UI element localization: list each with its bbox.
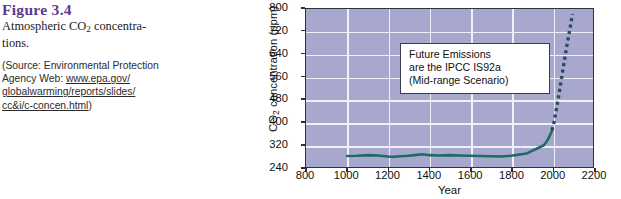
source-url-line1[interactable]: www.epa.gov/ <box>66 73 130 84</box>
y-tick-label: 480 <box>248 93 288 104</box>
figure-title-text-end: tions. <box>2 36 29 50</box>
annotation-line-1: Future Emissions <box>409 48 542 61</box>
source-url-line3[interactable]: cc&i/c-concen.html <box>2 100 88 111</box>
figure-source-note: (Source: Environmental Protection Agency… <box>2 59 164 112</box>
figure-caption-block: Figure 3.4 Atmospheric CO2 concentra-tio… <box>2 1 234 112</box>
y-tick-label: 720 <box>248 25 288 36</box>
y-tick-label: 560 <box>248 71 288 82</box>
x-tick-mark <box>470 168 472 172</box>
source-suffix-text: ) <box>88 100 91 111</box>
figure-title-text-cont: concentra- <box>91 19 146 33</box>
x-tick-mark <box>594 168 596 172</box>
x-tick-mark <box>429 168 431 172</box>
x-tick-mark <box>511 168 513 172</box>
x-tick-mark <box>388 168 390 172</box>
y-tick-label: 800 <box>248 2 288 13</box>
x-tick-mark <box>346 168 348 172</box>
x-tick-mark <box>553 168 555 172</box>
projection-line <box>552 14 573 130</box>
y-tick-mark <box>301 121 305 123</box>
observed-line <box>347 130 552 157</box>
y-axis-title-subscript: 2 <box>271 110 281 115</box>
y-tick-mark <box>301 144 305 146</box>
source-url-line2[interactable]: globalwarming/reports/slides/ <box>2 86 135 97</box>
y-tick-label: 320 <box>248 139 288 150</box>
annotation-line-3: (Mid-range Scenario) <box>409 74 542 87</box>
x-axis-title: Year <box>305 184 594 196</box>
co2-concentration-chart: CO2 concentration (ppm) Future Emissions… <box>243 0 621 199</box>
y-tick-label: 400 <box>248 116 288 127</box>
annotation-callout: Future Emissions are the IPCC IS92a (Mid… <box>400 43 550 94</box>
y-tick-mark <box>301 76 305 78</box>
figure-title-text: Atmospheric CO <box>2 19 86 33</box>
y-tick-mark <box>301 53 305 55</box>
figure-number: Figure 3.4 <box>2 1 234 18</box>
figure-title: Atmospheric CO2 concentra-tions. <box>2 19 152 51</box>
x-tick-mark <box>305 168 307 172</box>
y-tick-mark <box>301 30 305 32</box>
annotation-line-2: are the IPCC IS92a <box>409 61 542 74</box>
plot-area: Future Emissions are the IPCC IS92a (Mid… <box>305 8 594 168</box>
y-tick-label: 240 <box>248 162 288 173</box>
y-tick-mark <box>301 7 305 9</box>
y-tick-mark <box>301 98 305 100</box>
y-tick-label: 640 <box>248 48 288 59</box>
